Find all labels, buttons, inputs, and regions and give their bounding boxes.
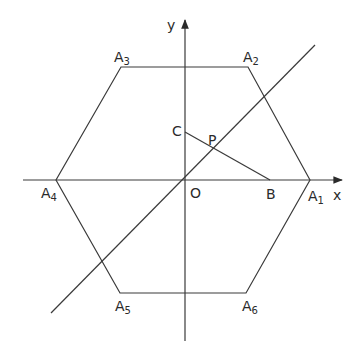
x-axis-label: x — [333, 187, 341, 203]
label-a1: A1 — [308, 188, 324, 206]
y-axis-label: y — [167, 17, 175, 33]
line-through-origin — [51, 45, 315, 313]
label-a4: A4 — [41, 185, 57, 203]
label-a6: A6 — [242, 298, 258, 316]
hexagon-diagram: x y A1 A2 A3 A4 A5 A6 O B C P — [0, 0, 357, 341]
label-a3: A3 — [114, 49, 130, 67]
segment-cb — [185, 132, 270, 180]
label-c: C — [172, 123, 182, 139]
label-a2: A2 — [243, 49, 259, 67]
label-p: P — [208, 132, 216, 148]
label-o: O — [190, 185, 201, 201]
label-b: B — [266, 186, 276, 202]
label-a5: A5 — [115, 298, 131, 316]
